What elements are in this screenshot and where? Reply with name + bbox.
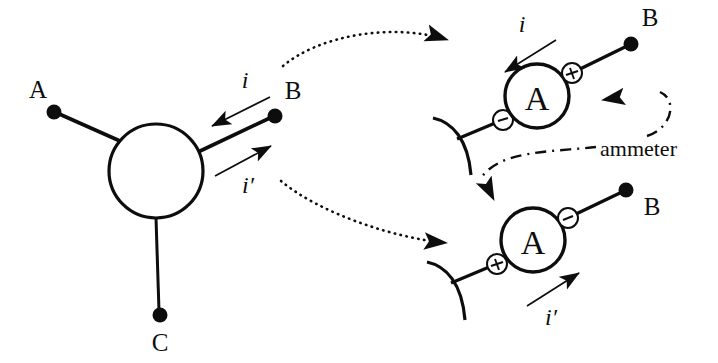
terminal-dot-b-top [624, 37, 639, 52]
zoom-arrow-top [283, 32, 448, 66]
junction-node [109, 124, 203, 218]
lead-meter-to-b-bottom [576, 192, 622, 214]
lead-junction-to-b [198, 117, 272, 152]
current-label-i-prime-bottom: i′ [545, 304, 558, 330]
terminal-label-b: B [285, 77, 302, 104]
terminal-dot-c [153, 308, 168, 323]
zoom-arrow-bottom [281, 181, 447, 243]
current-label-i-prime: i′ [242, 172, 255, 198]
terminal-label-a: A [29, 76, 47, 103]
lead-junction-to-c [156, 218, 159, 311]
ammeter-glyph-top: A [525, 80, 550, 117]
lead-junction-to-a [57, 113, 120, 141]
current-label-i: i [242, 67, 249, 93]
terminal-dot-b-bottom [619, 183, 634, 198]
callout-arrow-bottom [482, 176, 494, 200]
current-label-i-top: i [519, 11, 526, 37]
callout-leader-bottom [481, 147, 596, 178]
terminal-dot-a [47, 105, 62, 120]
junction-arc-bottom [427, 262, 465, 320]
callout-arrow-top [602, 92, 652, 100]
lead-meter-to-b-top [580, 46, 627, 69]
terminal-label-c: C [152, 329, 169, 356]
diagram-canvas: A C B i i′ A [0, 0, 718, 363]
terminal-label-b-top: B [642, 4, 659, 31]
current-arrow-i-prime-bottom [527, 273, 579, 306]
terminal-dot-b [268, 109, 283, 124]
ammeter-callout-label: ammeter [600, 136, 678, 161]
ammeter-glyph-bottom: A [521, 224, 546, 261]
physics-diagram-figure: A C B i i′ A [0, 0, 718, 363]
terminal-label-b-bottom: B [644, 193, 661, 220]
callout-leader-top [647, 92, 670, 136]
junction-arc-top [433, 118, 471, 175]
